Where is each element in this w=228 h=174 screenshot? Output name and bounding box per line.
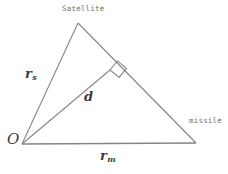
label-d: d bbox=[84, 90, 93, 103]
label-rm: rm bbox=[100, 149, 116, 163]
diagram-canvas bbox=[0, 0, 228, 174]
label-rs-base: r bbox=[25, 66, 32, 81]
label-rm-subscript: m bbox=[107, 154, 115, 164]
segment-rm bbox=[22, 143, 196, 144]
label-origin: O bbox=[7, 132, 19, 147]
label-missile: missile bbox=[189, 117, 222, 125]
label-rs: rs bbox=[25, 67, 37, 81]
geometry-diagram: Satellite missile O rs d rm bbox=[0, 0, 228, 174]
label-rm-base: r bbox=[100, 148, 107, 163]
label-satellite: Satellite bbox=[62, 5, 104, 13]
segment-satellite-missile bbox=[78, 23, 196, 143]
segment-rs bbox=[22, 23, 78, 144]
label-rs-subscript: s bbox=[32, 72, 37, 82]
